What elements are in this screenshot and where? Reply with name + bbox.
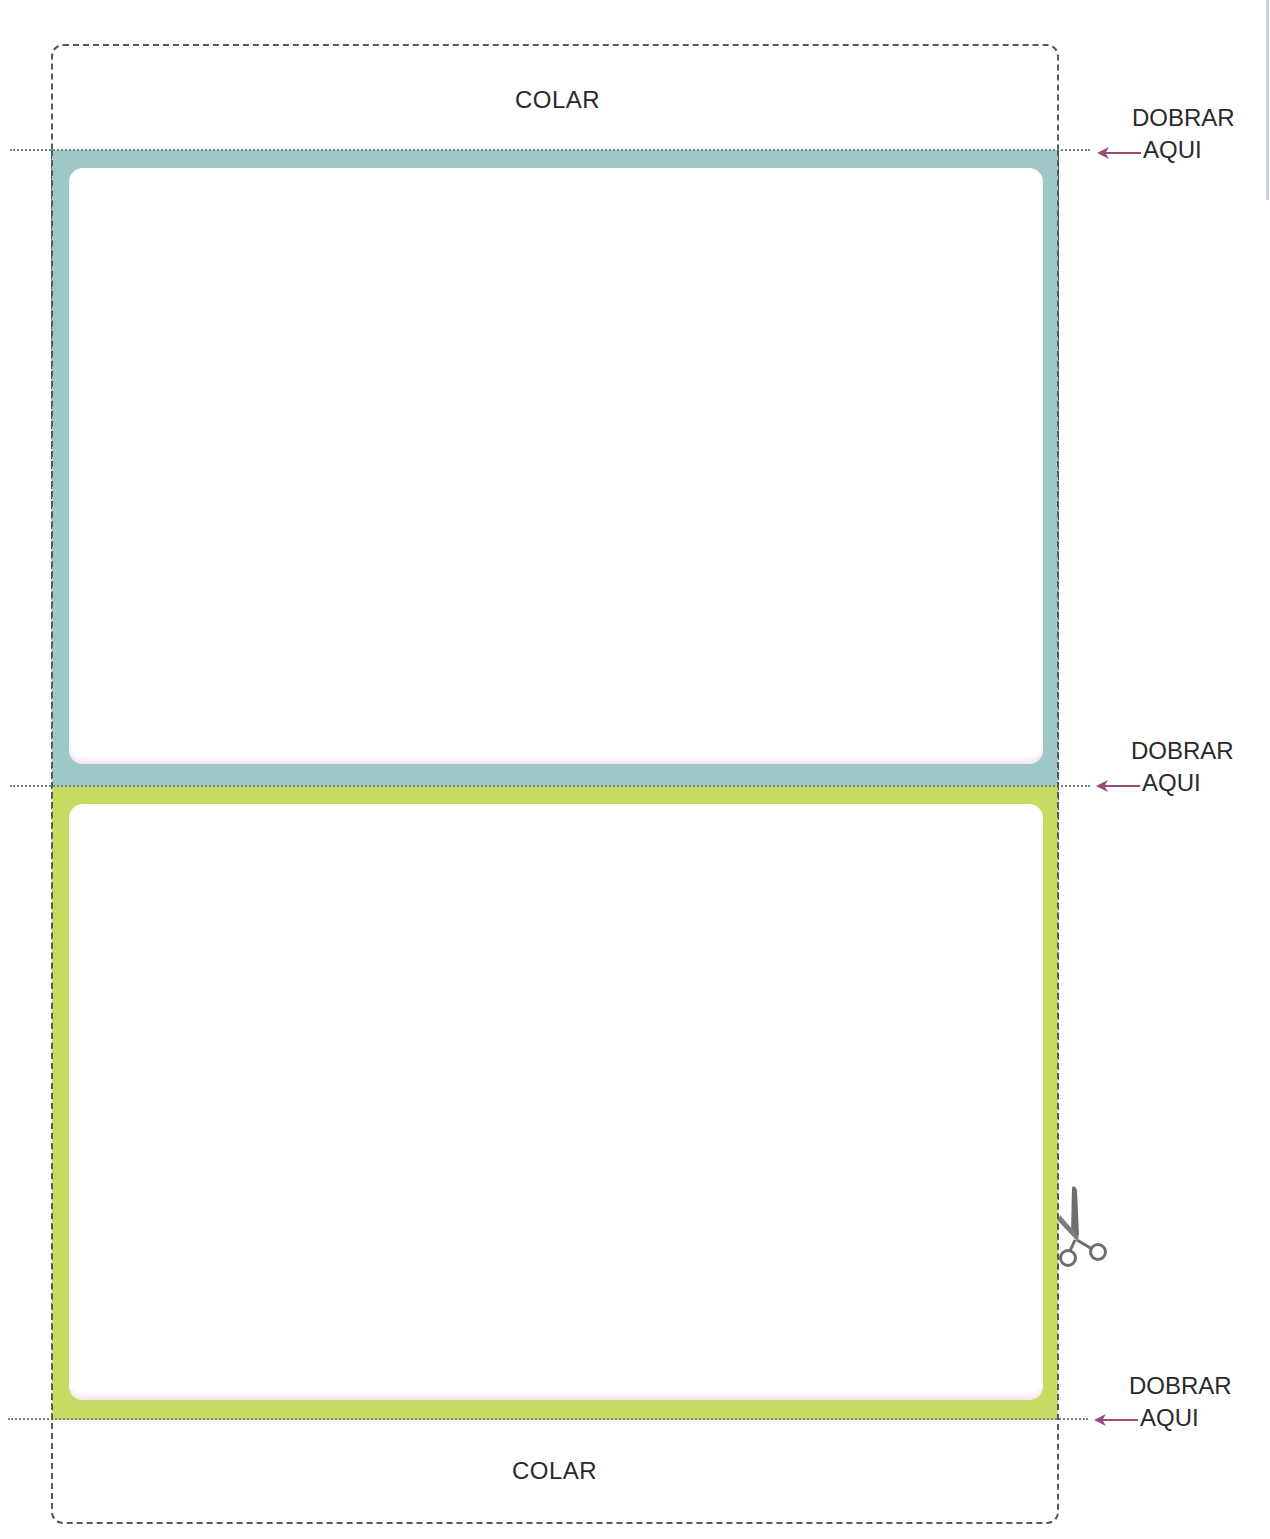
fold-label-3: DOBRAR AQUI <box>1129 1370 1232 1434</box>
scissors-icon <box>1055 1185 1111 1275</box>
top-glue-label: COLAR <box>515 86 600 114</box>
bottom-glue-label: COLAR <box>512 1457 597 1485</box>
fold-line-2 <box>10 785 1090 787</box>
panel-green <box>52 786 1058 1420</box>
panel-blue-content-area <box>69 168 1043 764</box>
fold-line-3 <box>8 1418 1088 1420</box>
fold-label-2-line2: AQUI <box>1109 767 1234 799</box>
fold-label-3-line2: AQUI <box>1107 1402 1232 1434</box>
fold-line-1 <box>10 149 1090 151</box>
fold-label-3-line1: DOBRAR <box>1129 1370 1232 1402</box>
panel-blue <box>52 150 1058 786</box>
fold-label-1-line2: AQUI <box>1110 134 1235 166</box>
panel-green-content-area <box>69 804 1043 1400</box>
fold-label-1-line1: DOBRAR <box>1132 102 1235 134</box>
fold-label-1: DOBRAR AQUI <box>1132 102 1235 166</box>
page-edge-line <box>1266 0 1269 200</box>
fold-label-2-line1: DOBRAR <box>1131 735 1234 767</box>
fold-label-2: DOBRAR AQUI <box>1131 735 1234 799</box>
left-cut-line <box>51 150 53 1420</box>
